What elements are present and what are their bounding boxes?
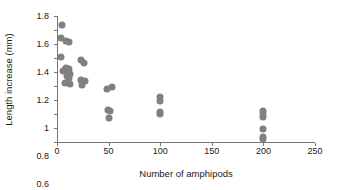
x-tick-label: 150 [204, 147, 219, 156]
x-axis-title: Number of amphipods [57, 168, 315, 179]
y-tick-mark: 1.8 [54, 16, 57, 17]
data-point [66, 38, 73, 45]
y-tick-mark: 0.6 [54, 100, 57, 101]
y-tick-label: 1 [44, 124, 49, 133]
data-point [260, 126, 267, 133]
data-point [67, 80, 74, 87]
data-point [260, 113, 267, 120]
data-point [58, 54, 65, 61]
data-point [108, 84, 115, 91]
x-tick-label: 250 [307, 147, 322, 156]
y-tick-label: 0.6 [36, 180, 49, 189]
data-point [260, 136, 267, 143]
x-tick-label: 200 [256, 147, 271, 156]
x-axis-line [57, 142, 315, 143]
data-point [59, 22, 66, 29]
y-tick-label: 0.8 [36, 152, 49, 161]
y-tick-mark: 1.4 [54, 44, 57, 45]
y-tick-mark: 0.2 [54, 128, 57, 129]
y-tick-label: 1.4 [36, 68, 49, 77]
x-tick-label: 50 [104, 147, 114, 156]
data-point [80, 59, 87, 66]
scatter-plot-figure: 00.20.40.60.811.21.41.61.8 0501001502002… [0, 0, 341, 190]
y-tick-mark: 0.4 [54, 114, 57, 115]
x-tick-label: 100 [153, 147, 168, 156]
y-tick-label: 1.8 [36, 12, 49, 21]
y-tick-mark: 1.2 [54, 58, 57, 59]
y-tick-mark: 1 [54, 72, 57, 73]
data-point [157, 111, 164, 118]
x-tick-label: 0 [54, 147, 59, 156]
data-point [157, 98, 164, 105]
plot-area: 00.20.40.60.811.21.41.61.8 0501001502002… [57, 16, 315, 143]
y-tick-mark: 0.8 [54, 86, 57, 87]
y-tick-mark: 1.6 [54, 30, 57, 31]
y-axis-title: Length increase (mm) [3, 16, 16, 143]
y-tick-label: 1.6 [36, 40, 49, 49]
data-point [78, 81, 85, 88]
y-tick-label: 1.2 [36, 96, 49, 105]
data-point [105, 114, 112, 121]
